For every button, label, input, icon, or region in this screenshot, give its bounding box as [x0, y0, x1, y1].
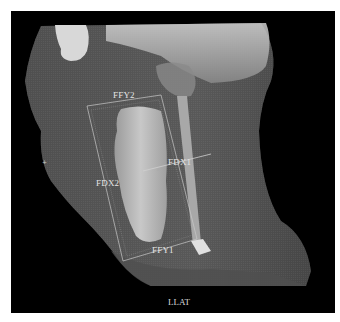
svg-text:+: +: [42, 158, 47, 165]
image-frame: + x FFY2 FDX1 FDX2 FFY1 LLAT: [11, 11, 335, 313]
view-label: LLAT: [168, 298, 190, 307]
annotation-fdx2: FDX2: [96, 179, 119, 188]
annotation-fdx1: FDX1: [168, 158, 191, 167]
annotation-ffy2: FFY2: [113, 91, 135, 100]
annotation-ffy1: FFY1: [152, 246, 174, 255]
